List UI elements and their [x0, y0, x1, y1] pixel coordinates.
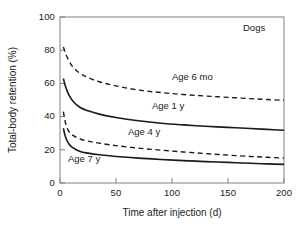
series-label-age-1-y: Age 1 y: [152, 100, 184, 111]
y-tick-label-20: 20: [31, 144, 55, 155]
y-tick-label-100: 100: [31, 11, 55, 22]
x-tick-label-150: 150: [215, 187, 241, 198]
x-tick-label-100: 100: [159, 187, 185, 198]
series-label-age-6-mo: Age 6 mo: [172, 71, 213, 82]
panel-label-dogs: Dogs: [243, 22, 265, 33]
x-tick-label-0: 0: [50, 187, 70, 198]
y-axis-title: Total-body retention (%): [7, 47, 18, 153]
x-axis-title: Time after injection (d): [60, 207, 284, 218]
x-tick-label-200: 200: [271, 187, 297, 198]
y-tick-label-80: 80: [31, 44, 55, 55]
y-tick-label-60: 60: [31, 77, 55, 88]
y-tick-label-40: 40: [31, 110, 55, 121]
series-label-age-4-y: Age 4 y: [128, 126, 160, 137]
chart-figure: Total-body retention (%) 100 80 60 40 20…: [0, 0, 304, 230]
series-label-age-7-y: Age 7 y: [68, 153, 100, 164]
x-tick-label-50: 50: [104, 187, 128, 198]
